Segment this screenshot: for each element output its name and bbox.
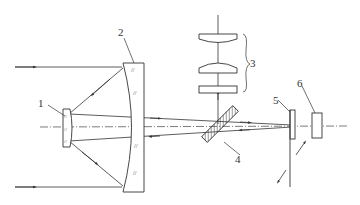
svg-text://: // bbox=[134, 143, 138, 149]
incoming-rays bbox=[15, 15, 292, 187]
beam-splitter bbox=[202, 106, 239, 143]
svg-text://: // bbox=[133, 170, 137, 176]
svg-text://: // bbox=[133, 90, 137, 96]
label-6: 6 bbox=[297, 77, 303, 89]
label-2: 2 bbox=[118, 26, 124, 38]
label-4: 4 bbox=[235, 153, 241, 165]
lens-group bbox=[199, 34, 250, 93]
label-1: 1 bbox=[38, 97, 44, 109]
secondary-mirror: // // // bbox=[63, 109, 72, 147]
label-3: 3 bbox=[250, 57, 256, 69]
detector bbox=[302, 86, 322, 138]
optical-diagram: // // // // // // // 1 2 3 4 5 6 bbox=[0, 0, 360, 205]
label-5: 5 bbox=[273, 94, 279, 106]
primary-mirror: // // // // bbox=[123, 63, 144, 192]
reticle bbox=[278, 100, 305, 187]
svg-text://: // bbox=[131, 67, 135, 73]
optical-axis bbox=[40, 126, 348, 127]
